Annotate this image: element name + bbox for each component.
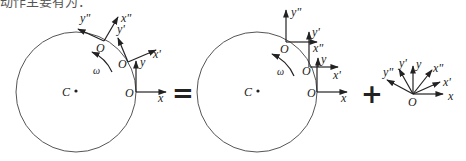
panel-1-rotating-frames: C ω O x y O x' y' O x" y" bbox=[16, 11, 166, 152]
origin-label-1a: O bbox=[125, 86, 134, 100]
panel-3-rotation-about-origin: O x x' x" y y' y" bbox=[382, 56, 454, 109]
y1-label-2: y' bbox=[311, 25, 320, 39]
y1-label-3: y' bbox=[398, 56, 407, 70]
x1-label-3: x' bbox=[442, 75, 451, 89]
y-label-3: y bbox=[415, 57, 422, 71]
x1-label-2: x' bbox=[332, 68, 341, 82]
plus-sign: + bbox=[361, 79, 383, 109]
equals-sign: = bbox=[172, 78, 194, 108]
center-point-1 bbox=[74, 89, 77, 92]
origin-label-2b: O bbox=[302, 64, 311, 78]
origin-label-1b: O bbox=[118, 57, 127, 71]
x-label-1: x bbox=[157, 91, 164, 105]
origin-label-2c: O bbox=[280, 42, 289, 56]
x2-axis-1 bbox=[104, 17, 118, 41]
x2-label-1: x" bbox=[120, 11, 132, 25]
x2-label-2: x" bbox=[312, 41, 324, 55]
y2-label-1: y" bbox=[79, 11, 91, 25]
omega-label-2: ω bbox=[277, 66, 284, 77]
y2-label-3: y" bbox=[382, 65, 394, 79]
origin-label-1c: O bbox=[96, 41, 105, 55]
x2-label-3: x" bbox=[432, 61, 444, 75]
origin-label-3: O bbox=[408, 95, 417, 109]
y2-axis-1 bbox=[78, 29, 104, 41]
origin-label-2a: O bbox=[307, 86, 316, 100]
panel-2-translating-frames: C ω O x O x' y O x" y' y" bbox=[197, 5, 347, 152]
y2-label-2: y" bbox=[290, 5, 302, 19]
center-label-2: C bbox=[244, 85, 253, 99]
center-point-2 bbox=[256, 89, 259, 92]
x-label-3: x bbox=[447, 89, 454, 103]
diagram-canvas: C ω O x y O x' y' O x" y" = C ω O x bbox=[0, 0, 466, 161]
x1-label-1: x' bbox=[152, 47, 161, 61]
center-label-1: C bbox=[62, 85, 71, 99]
omega-label-1: ω bbox=[93, 65, 100, 76]
x-label-2: x bbox=[340, 91, 347, 105]
